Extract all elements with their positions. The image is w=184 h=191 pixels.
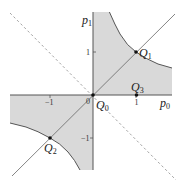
x-tick-label-pos: 1 (135, 98, 139, 107)
x-axis-label: p0 (159, 96, 170, 111)
y-tick-label-neg: −1 (81, 134, 90, 143)
x-tick-label-neg: −1 (45, 98, 54, 107)
phase-diagram: 1 −1 1 −1 0 p0 p1 Q0 Q1 Q2 Q3 (0, 0, 184, 191)
point-q1 (134, 50, 138, 54)
label-q1: Q1 (139, 46, 152, 61)
label-q2: Q2 (44, 141, 57, 156)
origin-label: 0 (86, 97, 90, 106)
y-tick-label-pos: 1 (86, 48, 90, 57)
y-axis-label: p1 (81, 13, 92, 28)
point-q0 (91, 93, 95, 97)
label-q0: Q0 (96, 98, 109, 113)
point-q2 (48, 136, 52, 140)
